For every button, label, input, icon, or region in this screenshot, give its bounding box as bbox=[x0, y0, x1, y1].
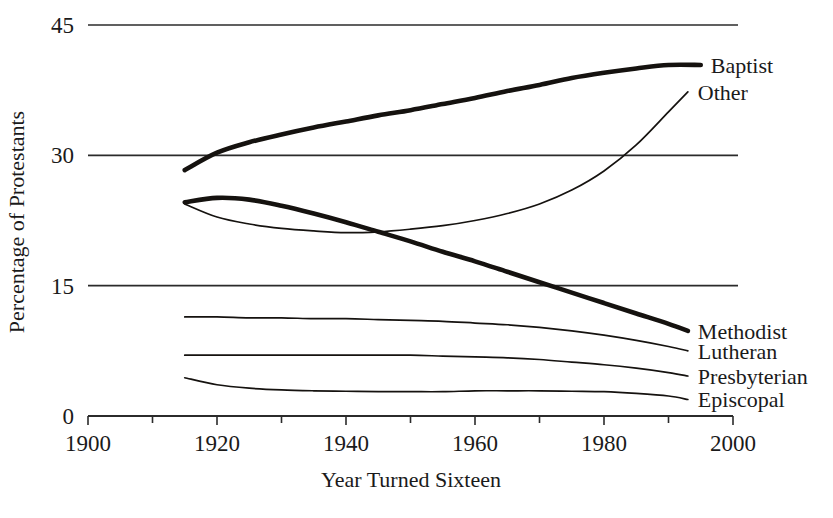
series-curve-episcopal bbox=[185, 378, 688, 400]
y-tick-label-30: 30 bbox=[51, 143, 74, 168]
y-tick-label-15: 15 bbox=[51, 274, 74, 299]
series-curve-methodist bbox=[185, 198, 688, 331]
y-tick-label-0: 0 bbox=[63, 404, 75, 429]
y-axis-title: Percentage of Protestants bbox=[4, 111, 29, 333]
series-label-baptist: Baptist bbox=[711, 53, 773, 78]
x-axis-tickmarks bbox=[88, 416, 733, 425]
y-axis-tick-labels: 0153045 bbox=[51, 13, 74, 429]
series-label-presbyterian: Presbyterian bbox=[698, 364, 808, 389]
x-axis-title: Year Turned Sixteen bbox=[321, 467, 501, 492]
series-labels: BaptistOtherMethodistLutheranPresbyteria… bbox=[698, 53, 808, 413]
line-chart-canvas: 0153045 190019201940196019802000 Baptist… bbox=[0, 0, 833, 518]
x-tick-label-1920: 1920 bbox=[194, 431, 240, 456]
x-tick-label-1900: 1900 bbox=[65, 431, 111, 456]
y-tick-label-45: 45 bbox=[51, 13, 74, 38]
x-tick-label-1960: 1960 bbox=[452, 431, 498, 456]
series-curve-lutheran bbox=[185, 317, 688, 351]
x-tick-label-1940: 1940 bbox=[323, 431, 369, 456]
series-label-lutheran: Lutheran bbox=[698, 339, 777, 364]
x-axis-tick-labels: 190019201940196019802000 bbox=[65, 431, 756, 456]
series-label-episcopal: Episcopal bbox=[698, 387, 785, 412]
series-curve-baptist bbox=[185, 65, 701, 170]
gridlines bbox=[88, 25, 738, 286]
x-tick-label-1980: 1980 bbox=[581, 431, 627, 456]
series-curve-presbyterian bbox=[185, 355, 688, 376]
series-curve-other bbox=[185, 92, 688, 233]
chart-figure: 0153045 190019201940196019802000 Baptist… bbox=[0, 0, 833, 518]
series-label-other: Other bbox=[698, 80, 749, 105]
x-tick-label-2000: 2000 bbox=[710, 431, 756, 456]
data-series-curves bbox=[185, 65, 701, 400]
